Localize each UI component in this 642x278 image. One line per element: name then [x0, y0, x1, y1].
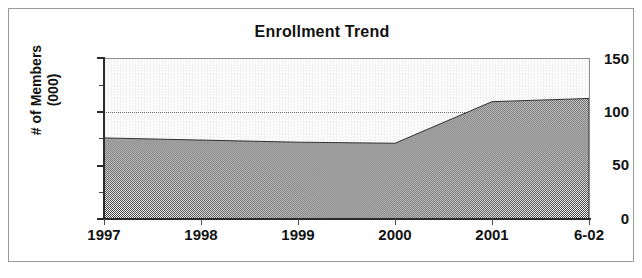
x-tick-1999 [298, 219, 299, 225]
x-axis-label-6-02: 6-02 [551, 226, 627, 243]
y-axis-title-line2: (000) [45, 0, 62, 180]
x-tick-2001 [492, 219, 493, 225]
x-tick-1997 [104, 219, 105, 225]
x-axis-line [103, 218, 591, 220]
x-axis-label-1998: 1998 [163, 226, 239, 243]
plot-area [104, 58, 590, 219]
x-tick-1998 [201, 219, 202, 225]
x-axis-label-1999: 1999 [260, 226, 336, 243]
x-tick-2000 [395, 219, 396, 225]
y-axis-title-line1: # of Members [28, 45, 44, 135]
screenshot-root: Enrollment Trend # of Members (000) 150 … [0, 0, 642, 278]
chart-frame: Enrollment Trend # of Members (000) 150 … [8, 8, 634, 262]
x-axis-label-2001: 2001 [454, 226, 530, 243]
x-tick-6-02 [589, 219, 590, 225]
area-polygon [104, 98, 589, 219]
chart-title: Enrollment Trend [9, 23, 635, 41]
y-axis-title: # of Members (000) [28, 0, 62, 180]
x-axis-label-2000: 2000 [357, 226, 433, 243]
y-axis-line [103, 57, 105, 220]
x-axis-label-1997: 1997 [66, 226, 142, 243]
enrollment-area-series [104, 59, 589, 219]
